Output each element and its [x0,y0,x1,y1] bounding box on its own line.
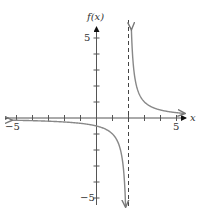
x-max-label: 5 [173,121,179,132]
x-min-label: −5 [5,121,20,132]
y-axis-label: f(x) [86,11,104,22]
x-axis-label: x [190,112,196,123]
left-branch-curve [12,120,126,207]
y-max-label: 5 [84,32,90,43]
y-min-label: −5 [80,192,95,203]
right-branch-curve [131,29,184,113]
function-graph: f(x) x 5 −5 −5 5 [0,0,200,216]
